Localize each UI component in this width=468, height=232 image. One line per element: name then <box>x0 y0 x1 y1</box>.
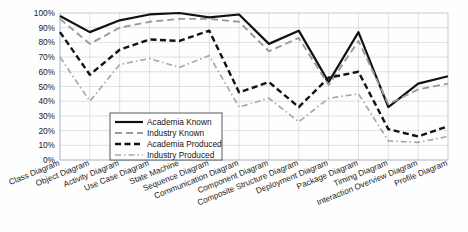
legend-label: Academia Produced <box>147 139 222 149</box>
series-line-academia-known <box>60 13 448 107</box>
legend-label: Industry Known <box>147 128 205 138</box>
y-axis-tick-label: 30% <box>38 111 55 121</box>
y-axis-tick-label: 40% <box>38 96 55 106</box>
y-axis-tick-label: 10% <box>38 140 55 150</box>
y-gridlines: 0%10%20%30%40%50%60%70%80%90%100% <box>34 8 448 165</box>
y-axis-tick-label: 70% <box>38 52 55 62</box>
series-line-industry-known <box>60 19 448 104</box>
y-axis-tick-label: 80% <box>38 37 55 47</box>
y-axis-tick-label: 50% <box>38 82 55 92</box>
y-axis-tick-label: 90% <box>38 23 55 33</box>
x-axis-labels: Class DiagramObject DiagramActivity Diag… <box>8 158 449 207</box>
chart-legend: Academia KnownIndustry KnownAcademia Pro… <box>110 113 222 160</box>
legend-label: Academia Known <box>147 117 212 127</box>
y-axis-tick-label: 60% <box>38 67 55 77</box>
legend-label: Industry Produced <box>147 150 215 160</box>
chart-canvas: 0%10%20%30%40%50%60%70%80%90%100%Class D… <box>0 0 468 232</box>
y-axis-tick-label: 100% <box>34 8 56 18</box>
y-axis-tick-label: 20% <box>38 126 55 136</box>
line-chart: 0%10%20%30%40%50%60%70%80%90%100%Class D… <box>0 0 468 232</box>
